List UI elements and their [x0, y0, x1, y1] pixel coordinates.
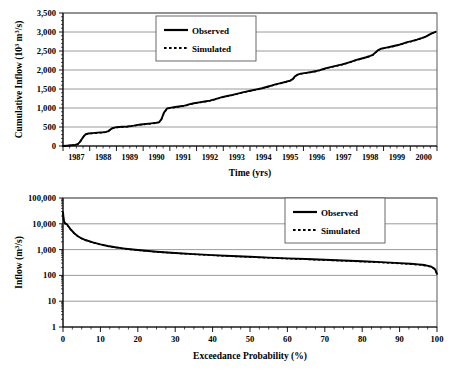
x-tick-label: 70 — [321, 334, 330, 344]
x-tick-label: 30 — [171, 334, 180, 344]
x-tick-label: 1989 — [122, 153, 138, 162]
bottom-chart-group: 1101001,00010,000100,0000102030405060708… — [13, 193, 444, 362]
y-tick-label: 10 — [47, 296, 56, 306]
y-tick-label: 3,000 — [37, 27, 56, 37]
chart-cumulative-inflow: 05001,0001,5002,0002,5003,0003,500198719… — [0, 0, 451, 190]
x-tick-label: 1988 — [95, 153, 111, 162]
flow-duration-plot: 1101001,00010,000100,0000102030405060708… — [0, 185, 451, 381]
x-tick-label: 1997 — [335, 153, 351, 162]
x-tick-label: 100 — [431, 334, 444, 344]
x-tick-label: 1994 — [255, 153, 271, 162]
y-tick-label: 1,000 — [37, 245, 56, 255]
chart-flow-duration-curve: 1101001,00010,000100,0000102030405060708… — [0, 185, 451, 381]
x-tick-label: 1999 — [389, 153, 405, 162]
x-tick-label: 10 — [96, 334, 105, 344]
x-tick-label: 1992 — [202, 153, 218, 162]
top-chart-group: 05001,0001,5002,0002,5003,0003,500198719… — [13, 8, 438, 179]
x-axis-title: Time (yrs) — [229, 168, 271, 179]
y-tick-label: 3,500 — [37, 8, 56, 18]
x-tick-label: 40 — [208, 334, 217, 344]
y-tick-label: 100 — [43, 270, 56, 280]
legend-label-observed: Observed — [192, 26, 229, 36]
x-tick-label: 1995 — [282, 153, 298, 162]
legend-box — [285, 198, 385, 243]
y-tick-label: 10,000 — [32, 219, 56, 229]
figure-container: 05001,0001,5002,0002,5003,0003,500198719… — [0, 0, 451, 381]
legend-label-simulated: Simulated — [192, 44, 231, 54]
y-tick-label: 500 — [43, 122, 56, 132]
x-tick-label: 80 — [358, 334, 367, 344]
x-tick-label: 2000 — [415, 153, 431, 162]
legend-label-simulated: Simulated — [321, 226, 360, 236]
cumulative-inflow-plot: 05001,0001,5002,0002,5003,0003,500198719… — [0, 0, 451, 190]
y-tick-label: 2,500 — [37, 46, 56, 56]
y-axis-title: Inflow (m3/s) — [13, 236, 26, 289]
x-tick-label: 1993 — [228, 153, 244, 162]
y-tick-label: 1 — [52, 322, 56, 332]
x-tick-label: 90 — [395, 334, 404, 344]
x-axis-title: Exceedance Probability (%) — [193, 351, 307, 362]
y-axis-title: Cumulative Inflow (103 m3/s) — [13, 21, 26, 139]
x-tick-label: 1998 — [362, 153, 378, 162]
x-tick-label: 0 — [61, 334, 65, 344]
y-tick-label: 100,000 — [28, 193, 56, 203]
x-tick-label: 20 — [134, 334, 143, 344]
x-tick-label: 1996 — [309, 153, 325, 162]
legend-box — [156, 16, 256, 61]
y-tick-label: 1,000 — [37, 103, 56, 113]
legend-label-observed: Observed — [321, 208, 358, 218]
y-tick-label: 1,500 — [37, 84, 56, 94]
x-tick-label: 1987 — [68, 153, 84, 162]
x-tick-label: 1990 — [148, 153, 164, 162]
x-tick-label: 50 — [246, 334, 255, 344]
y-tick-label: 0 — [52, 141, 56, 151]
y-tick-label: 2,000 — [37, 65, 56, 75]
x-tick-label: 60 — [283, 334, 292, 344]
x-tick-label: 1991 — [175, 153, 191, 162]
